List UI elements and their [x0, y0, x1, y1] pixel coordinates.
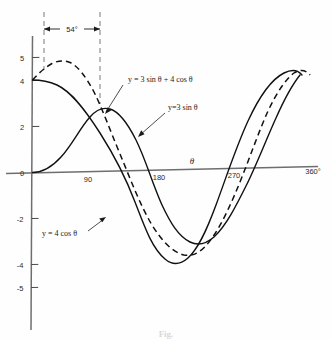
figure-caption: Fig. [159, 329, 174, 339]
x-tick-label-90: 90 [84, 175, 92, 184]
annotation-leaders [88, 85, 165, 231]
y-tick-label-neg4: -4 [17, 261, 24, 270]
dim-arrow-left [44, 27, 50, 32]
figure-container: 5 4 2 0 -2 -4 -5 90 180 270 360° θ [0, 0, 332, 339]
label-resultant-curve: y = 3 sin θ + 4 cos θ [128, 75, 193, 84]
phase-shift-label: 54° [66, 25, 77, 34]
curve-resultant [33, 61, 311, 255]
dim-arrow-right [94, 27, 100, 32]
leader-resultant [106, 85, 123, 112]
y-tick-label-0: 0 [20, 169, 24, 178]
y-tick-label-2: 2 [20, 123, 24, 132]
x-tick-label-270: 270 [228, 171, 241, 180]
y-tick-label-neg2: -2 [17, 215, 24, 224]
phase-dimension: 54° [44, 25, 100, 34]
y-tick-label-neg5: -5 [17, 284, 24, 293]
label-cosine-curve: y = 4 cos θ [42, 229, 77, 238]
x-tick-label-180: 180 [153, 173, 166, 182]
label-sine-curve: y=3 sin θ [168, 103, 198, 112]
y-tick-label-4: 4 [20, 77, 24, 86]
x-tick-label-360: 360° [305, 167, 321, 176]
curve-3sin-theta [33, 75, 301, 244]
leader-arrow-sine [138, 130, 145, 137]
y-tick-label-5: 5 [20, 54, 24, 63]
theta-axis-label: θ [190, 156, 195, 166]
leader-sine [140, 113, 165, 135]
trig-superposition-plot: 5 4 2 0 -2 -4 -5 90 180 270 360° θ [0, 0, 332, 339]
